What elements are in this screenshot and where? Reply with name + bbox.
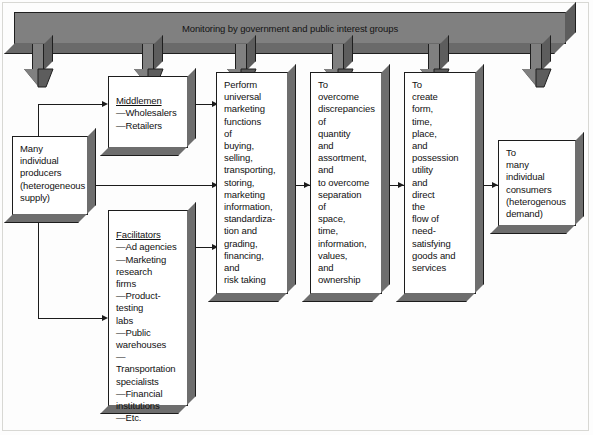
- box-utility-bottom: [396, 293, 475, 302]
- box-discrepancies-bottom: [302, 293, 381, 302]
- box-discrepancies-side: [381, 64, 390, 293]
- box-functions-text: Perform universal marketing functions of…: [217, 73, 287, 293]
- box-middlemen-side: [187, 68, 196, 147]
- box-consumers-side: [575, 132, 584, 225]
- monitoring-band-group: Monitoring by government and public inte…: [0, 0, 593, 70]
- box-facilitators-header: Facilitators: [116, 229, 181, 241]
- box-producers-text: Many individual producers (heterogeneous…: [13, 137, 87, 214]
- box-functions[interactable]: Perform universal marketing functions of…: [216, 72, 288, 294]
- band-bottom-face: [4, 43, 565, 54]
- box-consumers-text: To many individual consumers (heterogeno…: [499, 141, 575, 225]
- connector-producers-to-functions: [88, 185, 216, 186]
- box-producers[interactable]: Many individual producers (heterogeneous…: [12, 136, 88, 215]
- box-facilitators-side: [187, 202, 196, 405]
- box-middlemen-bullets: —Wholesalers —Retailers: [116, 107, 181, 131]
- box-middlemen-bottom: [100, 147, 187, 156]
- box-functions-bottom: [208, 293, 287, 302]
- box-facilitators-bullets: —Ad agencies —Marketing research firms —…: [116, 241, 181, 424]
- box-producers-bottom: [4, 214, 87, 223]
- box-facilitators-body: Facilitators—Ad agencies —Marketing rese…: [109, 211, 187, 405]
- box-consumers[interactable]: To many individual consumers (heterogeno…: [498, 140, 576, 226]
- box-consumers-bottom: [490, 225, 575, 234]
- box-middlemen[interactable]: Middlemen—Wholesalers —Retailers: [108, 76, 188, 148]
- connector-producers-up: [38, 104, 39, 136]
- box-discrepancies[interactable]: To overcome discrepancies of quantity an…: [310, 72, 382, 294]
- connector-producers-down: [38, 215, 39, 319]
- diagram-canvas: Monitoring by government and public inte…: [0, 0, 593, 435]
- box-producers-side: [87, 128, 96, 214]
- band-right-face: [565, 2, 576, 43]
- box-utility-text: To create form, time, place, and possess…: [405, 73, 475, 293]
- box-facilitators[interactable]: Facilitators—Ad agencies —Marketing rese…: [108, 210, 188, 406]
- box-discrepancies-text: To overcome discrepancies of quantity an…: [311, 73, 381, 293]
- box-utility[interactable]: To create form, time, place, and possess…: [404, 72, 476, 294]
- connector-producers-to-facilitators: [38, 318, 104, 319]
- box-middlemen-header: Middlemen: [116, 95, 181, 107]
- monitoring-band-label: Monitoring by government and public inte…: [14, 12, 566, 44]
- box-middlemen-body: Middlemen—Wholesalers —Retailers: [109, 77, 187, 147]
- connector-producers-to-middlemen: [38, 104, 104, 105]
- box-functions-side: [287, 64, 296, 293]
- box-utility-side: [475, 64, 484, 293]
